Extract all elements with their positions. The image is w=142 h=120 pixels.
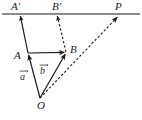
label-a-prime: A′: [11, 1, 20, 12]
segment-a-to-b: [28, 52, 64, 53]
label-vector-b: b: [40, 63, 45, 76]
label-o: O: [37, 100, 45, 111]
vector-b-text: b: [40, 65, 45, 76]
vector-a-text: a: [20, 71, 25, 82]
diagram-canvas: [0, 0, 142, 120]
segment-a-to-a-prime: [20, 16, 28, 53]
label-vector-a: a: [20, 69, 25, 82]
vector-diagram-figure: A′ B′ P A B O a b: [0, 0, 142, 120]
segment-o-to-a: [29, 55, 40, 98]
label-b-prime: B′: [52, 1, 61, 12]
segment-o-to-p-ray: [40, 17, 117, 98]
segment-b-to-b-prime: [57, 16, 66, 52]
segment-o-to-b: [40, 54, 65, 98]
label-b: B: [70, 44, 77, 55]
label-a: A: [14, 50, 21, 61]
label-p: P: [115, 1, 122, 12]
